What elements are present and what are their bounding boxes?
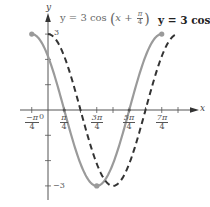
tick-denominator: 4 bbox=[159, 123, 164, 132]
x-tick-label-3pi-over-4: 3π 4 bbox=[87, 114, 107, 132]
fraction-denominator: 4 bbox=[138, 19, 142, 26]
equation-base-cosine: y = 3 cos x bbox=[158, 15, 210, 26]
tick-denominator: 4 bbox=[29, 123, 34, 132]
equation-prefix: y = 3 cos bbox=[60, 12, 107, 23]
x-axis-label: x bbox=[200, 104, 205, 113]
tick-denominator: 4 bbox=[94, 123, 99, 132]
equation-fraction: π 4 bbox=[137, 11, 144, 26]
marked-point-dot bbox=[94, 183, 99, 188]
y-axis-label: y bbox=[46, 3, 51, 12]
x-tick-label-5pi-over-4: 5π 4 bbox=[119, 114, 139, 132]
x-tick-label-7pi-over-4: 7π 4 bbox=[152, 114, 172, 132]
x-tick-label-neg-pi-over-4: −π 4 bbox=[22, 114, 42, 132]
chart-plot-area bbox=[0, 0, 210, 207]
x-tick-label-pi-over-4: π 4 bbox=[54, 114, 74, 132]
x-axis-arrow-icon bbox=[190, 107, 199, 113]
marked-point-dot bbox=[159, 31, 164, 36]
tick-denominator: 4 bbox=[61, 123, 66, 132]
zero-crossing-dot bbox=[63, 108, 66, 111]
marked-point-dot bbox=[29, 31, 34, 36]
y-axis-arrow-icon bbox=[45, 13, 51, 22]
y-tick-label-3: 3 bbox=[54, 29, 59, 37]
tick-denominator: 4 bbox=[126, 123, 131, 132]
equation-var: x + bbox=[115, 12, 132, 23]
y-tick-label-neg3: −3 bbox=[53, 182, 65, 190]
equation-shifted-cosine: y = 3 cos (x + π 4 ) bbox=[60, 11, 150, 26]
right-paren: ) bbox=[144, 11, 149, 27]
zero-crossing-dot bbox=[128, 108, 131, 111]
